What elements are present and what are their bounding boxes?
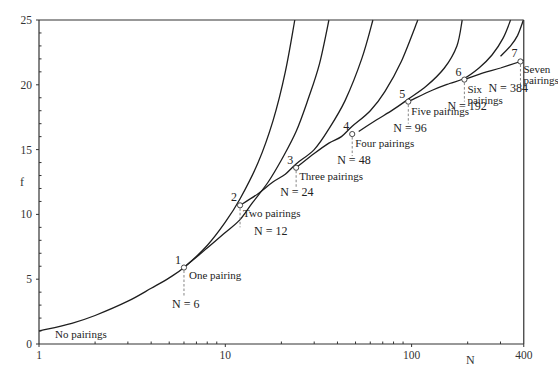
x-tick-label: 1 xyxy=(36,349,42,361)
y-tick-label: 15 xyxy=(21,144,33,156)
y-tick-label: 20 xyxy=(21,79,33,91)
annotation-label: No pairings xyxy=(55,328,107,340)
point-marker xyxy=(462,77,467,82)
point-label: One pairing xyxy=(189,269,242,281)
n-value-label: N = 24 xyxy=(280,185,313,199)
marked-points: 1One pairingN = 62Two pairingsN = 123Thr… xyxy=(172,46,558,310)
point-label: Three pairings xyxy=(299,170,363,182)
point-label: Four pairings xyxy=(355,137,414,149)
point-marker xyxy=(181,265,186,270)
series-curve xyxy=(39,20,295,331)
n-value-label: N = 96 xyxy=(393,121,426,135)
point-marker xyxy=(406,99,411,104)
x-tick-label: 10 xyxy=(220,349,232,361)
y-tick-label: 10 xyxy=(21,208,33,220)
y-axis-label: f xyxy=(20,175,24,189)
point-number: 6 xyxy=(455,65,461,79)
point-number: 1 xyxy=(175,253,181,267)
n-value-label: N = 6 xyxy=(172,297,199,311)
point-number: 5 xyxy=(399,87,405,101)
y-tick-label: 5 xyxy=(26,273,32,285)
n-value-label: N = 12 xyxy=(254,224,287,238)
x-tick-label: 400 xyxy=(515,349,533,361)
n-value-label: N = 384 xyxy=(488,81,527,95)
x-tick-label: 100 xyxy=(403,349,421,361)
point-marker xyxy=(350,131,355,136)
point-marker xyxy=(294,165,299,170)
curves: No pairings xyxy=(39,20,524,340)
n-value-label: N = 48 xyxy=(337,153,370,167)
y-tick-label: 0 xyxy=(26,338,32,350)
point-number: 4 xyxy=(343,119,349,133)
point-number: 7 xyxy=(511,46,517,60)
point-label: Two pairings xyxy=(243,207,301,219)
series-curve xyxy=(464,60,523,79)
point-marker xyxy=(518,59,523,64)
point-number: 3 xyxy=(287,153,293,167)
chart: No pairings 0510152025110100400 1One pai… xyxy=(0,0,558,380)
point-marker xyxy=(237,203,242,208)
x-axis-label: N xyxy=(466,353,475,367)
point-number: 2 xyxy=(231,190,237,204)
y-tick-label: 25 xyxy=(21,14,33,26)
n-value-label: N = 192 xyxy=(447,99,486,113)
point-label: Sevenpairings xyxy=(523,63,558,86)
